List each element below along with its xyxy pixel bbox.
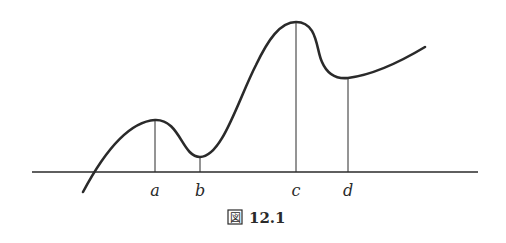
point-label-a: a [150, 181, 160, 200]
figure-caption: 図 12.1 [228, 209, 286, 227]
caption-figure-glyph: 図 [230, 212, 241, 225]
function-graph-figure: a b c d 図 12.1 [0, 0, 506, 243]
function-curve [83, 22, 425, 192]
point-label-b: b [195, 181, 205, 200]
caption-number: 12.1 [249, 209, 286, 227]
point-label-c: c [292, 181, 301, 200]
point-label-d: d [343, 181, 353, 200]
